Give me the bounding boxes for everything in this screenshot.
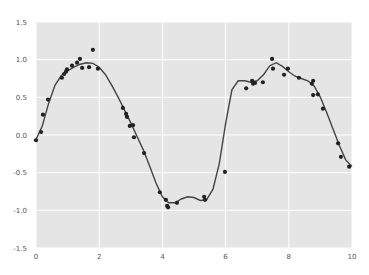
data-point — [311, 79, 315, 83]
data-point — [339, 155, 343, 159]
data-point — [347, 165, 351, 169]
y-tick-label: 1.5 — [16, 19, 27, 27]
data-point — [286, 67, 290, 71]
x-tick-label: 4 — [160, 253, 165, 261]
data-point — [60, 76, 64, 80]
data-point — [311, 93, 315, 97]
data-point — [41, 113, 45, 117]
data-point — [142, 151, 146, 155]
data-point — [78, 57, 82, 61]
data-point — [270, 57, 274, 61]
x-tick-label: 2 — [97, 253, 101, 261]
data-point — [80, 66, 84, 70]
data-point — [175, 201, 179, 205]
x-tick-label: 6 — [223, 253, 228, 261]
x-tick-label: 0 — [34, 253, 38, 261]
x-tick-label: 8 — [287, 253, 291, 261]
chart: 1.51.00.50.0-0.5-1.0-1.5 0246810 — [0, 0, 369, 275]
data-point — [261, 80, 265, 84]
data-point — [223, 170, 227, 174]
data-point — [75, 61, 79, 65]
y-tick-label: 0.0 — [16, 132, 27, 140]
data-point — [39, 130, 43, 134]
x-axis-ticks: 0246810 — [34, 253, 357, 261]
data-point — [271, 67, 275, 71]
data-point — [316, 92, 320, 96]
x-tick-label: 10 — [348, 253, 357, 261]
data-point — [158, 190, 162, 194]
data-point — [34, 138, 38, 142]
data-point — [70, 64, 74, 68]
data-point — [336, 141, 340, 145]
data-point — [65, 67, 69, 71]
y-tick-label: 1.0 — [16, 56, 27, 64]
data-point — [91, 48, 95, 52]
data-point — [131, 123, 135, 127]
data-point — [244, 86, 248, 90]
data-point — [132, 135, 136, 139]
data-point — [203, 198, 207, 202]
data-point — [321, 107, 325, 111]
y-tick-label: 0.5 — [16, 94, 27, 102]
data-point — [253, 81, 257, 85]
data-point — [297, 76, 301, 80]
y-tick-label: -1.0 — [13, 207, 27, 215]
data-point — [96, 67, 100, 71]
y-tick-label: -0.5 — [13, 169, 27, 177]
data-point — [121, 106, 125, 110]
y-axis-ticks: 1.51.00.50.0-0.5-1.0-1.5 — [13, 19, 27, 253]
data-point — [164, 198, 168, 202]
data-point — [282, 73, 286, 77]
data-point — [87, 65, 91, 69]
data-point — [166, 205, 170, 209]
data-point — [125, 115, 129, 119]
data-point — [46, 97, 50, 101]
y-tick-label: -1.5 — [13, 245, 27, 253]
